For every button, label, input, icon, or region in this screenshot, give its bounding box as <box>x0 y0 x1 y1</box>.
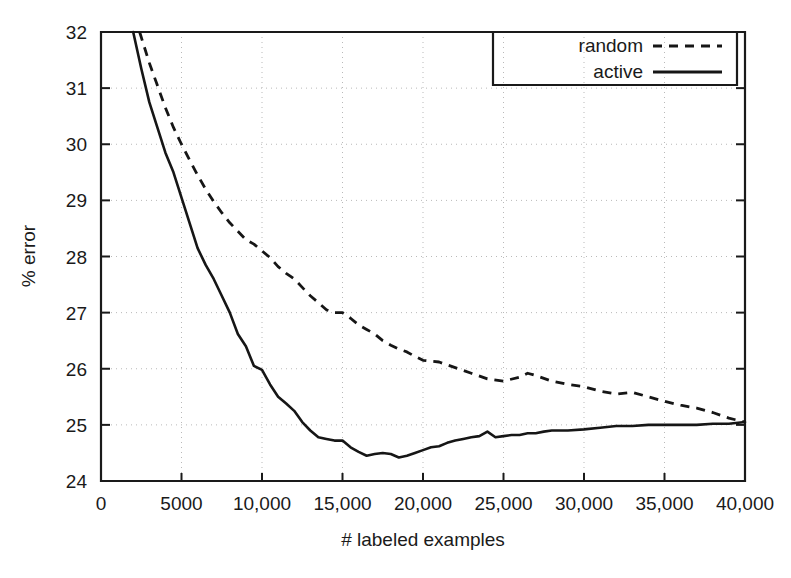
y-tick-label: 25 <box>66 415 87 436</box>
y-tick-label: 29 <box>66 190 87 211</box>
x-tick-label: 5000 <box>160 493 202 514</box>
y-axis-title: % error <box>18 224 39 287</box>
y-tick-label: 31 <box>66 78 87 99</box>
x-tick-label: 25,000 <box>474 493 532 514</box>
chart-figure: 0500010,00015,00020,00025,00030,00035,00… <box>0 0 791 578</box>
x-axis-title: # labeled examples <box>341 529 505 550</box>
x-tick-label: 0 <box>96 493 107 514</box>
x-tick-label: 20,000 <box>394 493 452 514</box>
legend-label-active: active <box>593 61 643 82</box>
x-tick-label: 30,000 <box>555 493 613 514</box>
x-axis-tick-labels: 0500010,00015,00020,00025,00030,00035,00… <box>96 493 774 514</box>
x-tick-label: 40,000 <box>716 493 774 514</box>
y-tick-label: 32 <box>66 22 87 43</box>
y-tick-label: 26 <box>66 359 87 380</box>
x-tick-label: 10,000 <box>233 493 291 514</box>
legend-label-random: random <box>579 35 643 56</box>
y-tick-label: 27 <box>66 303 87 324</box>
y-axis-tick-labels: 242526272829303132 <box>66 22 88 492</box>
x-tick-label: 35,000 <box>635 493 693 514</box>
y-tick-label: 28 <box>66 247 87 268</box>
y-tick-label: 30 <box>66 134 87 155</box>
y-tick-label: 24 <box>66 471 88 492</box>
x-tick-label: 15,000 <box>313 493 371 514</box>
figure-background <box>0 0 791 578</box>
